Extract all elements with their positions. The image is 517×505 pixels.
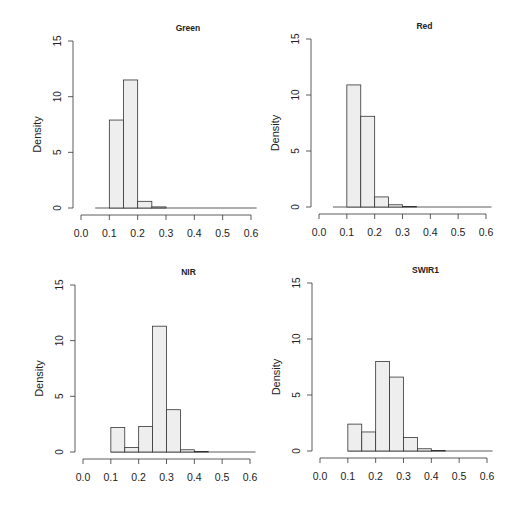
histogram-bar (138, 201, 152, 208)
x-tick-label: 0.0 (313, 470, 328, 482)
histogram-bar (194, 451, 208, 452)
x-tick-label: 0.2 (130, 227, 145, 239)
x-tick-label: 0.3 (159, 471, 174, 483)
histogram-bar (109, 120, 123, 208)
histogram-figure: Green 051015Density0.00.10.20.30.40.50.6… (0, 0, 517, 505)
y-tick-label: 10 (290, 89, 301, 101)
panel-swir1: SWIR1 051015Density0.00.10.20.30.40.50.6 (270, 265, 494, 482)
x-tick-label: 0.5 (215, 227, 230, 239)
panel-title: Red (416, 21, 432, 31)
histogram-bar (347, 85, 361, 207)
y-tick-label: 0 (52, 205, 63, 211)
histogram-bar (403, 206, 417, 207)
y-tick-label: 5 (291, 392, 302, 398)
histogram-bar (362, 432, 376, 451)
x-tick-label: 0.0 (312, 226, 327, 238)
y-tick-label: 0 (290, 204, 301, 210)
histogram-bar (376, 361, 390, 451)
panel-green: Green 051015Density0.00.10.20.30.40.50.6 (31, 23, 258, 239)
panel-red: Red 051015Density0.00.10.20.30.40.50.6 (269, 21, 493, 238)
panel-nir: NIR 051015Density0.00.10.20.30.40.50.6 (33, 267, 257, 483)
x-tick-label: 0.4 (187, 227, 202, 239)
y-tick-label: 10 (52, 91, 63, 103)
y-axis-label: Density (31, 116, 43, 153)
x-tick-label: 0.6 (479, 226, 494, 238)
histogram-bar (375, 197, 389, 207)
histogram-bar (390, 377, 404, 451)
x-tick-label: 0.3 (396, 470, 411, 482)
histogram-bar (431, 450, 445, 451)
y-tick-label: 0 (54, 449, 65, 455)
x-tick-label: 0.5 (452, 470, 467, 482)
y-axis-label: Density (269, 114, 281, 151)
histogram-bar (111, 428, 125, 452)
x-tick-label: 0.1 (340, 226, 355, 238)
x-tick-label: 0.5 (451, 226, 466, 238)
x-tick-label: 0.3 (159, 227, 174, 239)
y-axis-label: Density (270, 358, 282, 395)
y-tick-label: 10 (291, 333, 302, 345)
histogram-bar (389, 205, 403, 207)
histogram-bar (125, 448, 139, 452)
y-tick-label: 5 (54, 393, 65, 399)
y-axis-label: Density (33, 360, 45, 397)
histogram-bar (180, 450, 194, 452)
x-tick-label: 0.1 (102, 227, 117, 239)
histogram-bar (152, 207, 166, 208)
x-tick-label: 0.6 (244, 227, 259, 239)
panel-title: NIR (181, 267, 196, 277)
x-tick-label: 0.5 (215, 471, 230, 483)
x-tick-label: 0.4 (187, 471, 202, 483)
panel-title: Green (176, 23, 201, 33)
histogram-bar (139, 426, 153, 452)
x-tick-label: 0.0 (74, 227, 89, 239)
histogram-bar (348, 424, 362, 451)
histogram-bar (404, 438, 418, 451)
x-tick-label: 0.0 (76, 471, 91, 483)
x-tick-label: 0.3 (395, 226, 410, 238)
panel-title: SWIR1 (412, 265, 439, 275)
x-tick-label: 0.4 (424, 470, 439, 482)
histogram-bar (167, 410, 181, 452)
x-tick-label: 0.4 (423, 226, 438, 238)
x-tick-label: 0.2 (131, 471, 146, 483)
y-tick-label: 15 (54, 279, 65, 291)
histogram-bar (361, 116, 375, 207)
y-tick-label: 10 (54, 335, 65, 347)
histogram-bar (417, 449, 431, 451)
x-tick-label: 0.6 (480, 470, 495, 482)
y-tick-label: 15 (291, 277, 302, 289)
y-tick-label: 0 (291, 448, 302, 454)
x-tick-label: 0.2 (367, 226, 382, 238)
y-tick-label: 15 (290, 33, 301, 45)
y-tick-label: 5 (290, 148, 301, 154)
x-tick-label: 0.1 (104, 471, 119, 483)
x-tick-label: 0.2 (368, 470, 383, 482)
x-tick-label: 0.1 (341, 470, 356, 482)
x-tick-label: 0.6 (243, 471, 258, 483)
histogram-bar (124, 80, 138, 208)
y-tick-label: 5 (52, 149, 63, 155)
histogram-bar (153, 326, 167, 452)
y-tick-label: 15 (52, 35, 63, 47)
